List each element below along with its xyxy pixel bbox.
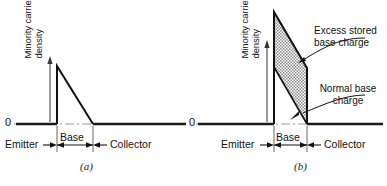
normal-base-charge-leader-arrowhead-b [290, 111, 299, 120]
y-axis-label-line2-b: density [251, 0, 262, 59]
base-dimension-arrowhead-left-a [57, 142, 64, 148]
panel-caption-a: (a) [80, 160, 93, 172]
y-axis-label-b-second: density [251, 0, 262, 59]
region-label-emitter-a: Emitter [5, 139, 38, 150]
y-axis-arrow-head-b [264, 40, 269, 48]
base-dimension-arrowhead-right-a [86, 142, 93, 148]
annotation-excess-line1: Excess stored [314, 25, 377, 37]
y-axis-label-line2-a: density [34, 0, 45, 59]
annotation-normal-line1: Normal base [317, 83, 379, 95]
normal-base-charge-profile-a [57, 66, 93, 124]
y-axis-label-line1-a: Minority carrier [23, 0, 34, 59]
figure-minority-carrier-density: 0 Minority carrier density Emitter Base … [0, 0, 387, 186]
collector-dimension-arrowhead-a [93, 142, 100, 148]
zero-axis-label-b: 0 [189, 117, 195, 128]
y-axis-label-a-second: density [34, 0, 45, 59]
collector-dimension-arrowhead-b [307, 142, 314, 148]
annotation-excess-line2: base charge [314, 37, 377, 49]
y-axis-label-a: Minority carrier [23, 0, 34, 59]
region-label-collector-a: Collector [110, 139, 151, 150]
panel-b: 0 Minority carrier density Excess stored… [193, 0, 387, 186]
y-axis-label-b: Minority carrier [240, 0, 251, 59]
zero-axis-label-a: 0 [5, 117, 11, 128]
excess-stored-base-charge-region-b [274, 12, 307, 124]
annotation-excess-stored-base-charge: Excess stored base charge [314, 25, 377, 48]
emitter-dimension-arrowhead-b [267, 142, 274, 148]
y-axis-label-line1-b: Minority carrier [240, 0, 251, 59]
base-dimension-arrowhead-left-b [274, 142, 281, 148]
y-axis-arrow-head-a [47, 56, 52, 64]
region-label-base-b: Base [276, 132, 300, 143]
region-label-emitter-b: Emitter [221, 139, 254, 150]
panel-a: 0 Minority carrier density Emitter Base … [0, 0, 194, 186]
annotation-normal-line2: charge [317, 95, 379, 107]
base-dimension-arrowhead-right-b [300, 142, 307, 148]
annotation-normal-base-charge: Normal base charge [317, 83, 379, 106]
region-label-base-a: Base [60, 132, 84, 143]
panel-caption-b: (b) [294, 160, 307, 172]
region-label-collector-b: Collector [324, 139, 365, 150]
emitter-dimension-arrowhead-a [50, 142, 57, 148]
